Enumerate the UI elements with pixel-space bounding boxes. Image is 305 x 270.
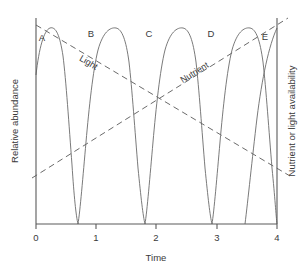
y-axis-left-title: Relative abundance (9, 79, 20, 163)
nutrient-line (32, 18, 288, 178)
chart-canvas: 0 1 2 3 4 A B C D E Light Nutrient Time … (0, 0, 305, 270)
chart-figure: 0 1 2 3 4 A B C D E Light Nutrient Time … (0, 0, 305, 270)
curve-c (145, 28, 212, 224)
curve-e (245, 28, 277, 224)
x-axis-title: Time (146, 252, 167, 263)
curve-label-e: E (262, 31, 268, 42)
resource-lines-group (32, 18, 290, 178)
x-tick-label-3: 3 (214, 232, 219, 243)
curve-a (36, 28, 78, 224)
x-tick-marks-group (36, 224, 277, 229)
x-tick-label-2: 2 (153, 232, 158, 243)
axes-group (36, 18, 277, 224)
nutrient-label: Nutrient (178, 60, 210, 85)
x-tick-label-0: 0 (33, 232, 38, 243)
curve-label-a: A (39, 32, 46, 43)
x-tick-labels-group: 0 1 2 3 4 (33, 232, 279, 243)
species-curves-group (36, 28, 277, 224)
x-tick-label-1: 1 (93, 232, 98, 243)
x-tick-label-4: 4 (274, 232, 279, 243)
curve-label-d: D (208, 28, 215, 39)
y-axis-right-title: Nutrient or light availability (286, 65, 297, 176)
light-line (36, 25, 290, 176)
curve-label-b: B (88, 28, 94, 39)
resource-labels-group: Light Nutrient (78, 53, 211, 85)
curve-label-c: C (146, 28, 153, 39)
curve-labels-group: A B C D E (39, 28, 268, 43)
